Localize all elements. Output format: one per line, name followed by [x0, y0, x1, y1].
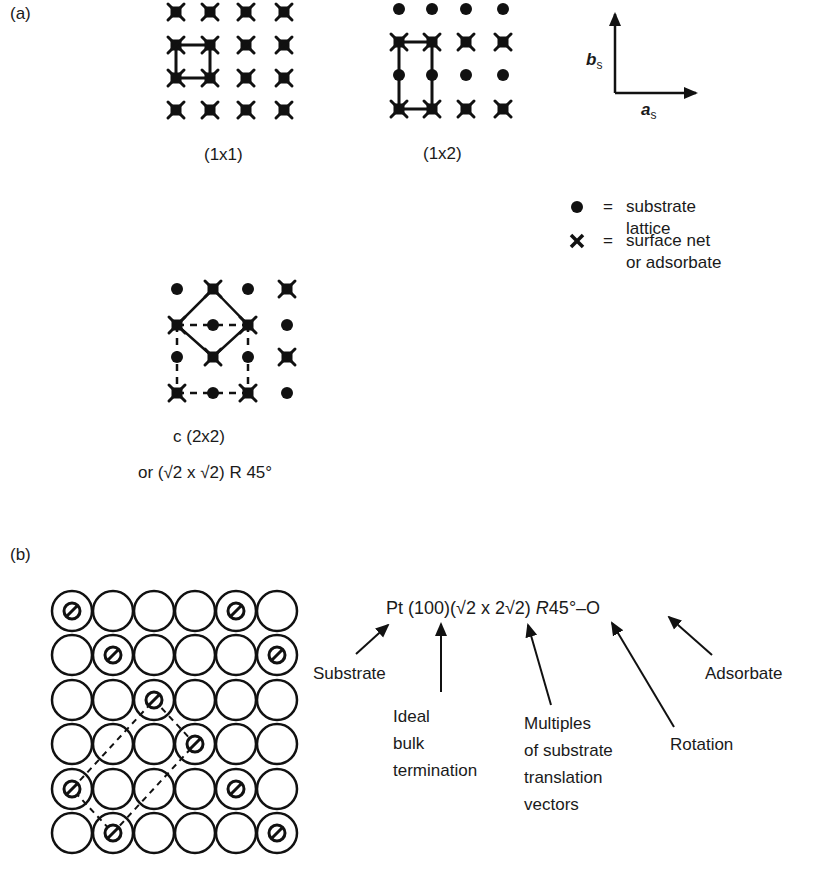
substrate-atom	[175, 680, 215, 720]
substrate-atom	[93, 591, 133, 631]
substrate-atom	[216, 680, 256, 720]
substrate-atom	[257, 591, 297, 631]
substrate-atom	[257, 680, 297, 720]
notation-matrix: (√2 x 2√2)	[450, 598, 531, 618]
notation-rot-symbol: R	[536, 598, 549, 618]
substrate-atom	[175, 769, 215, 809]
unit-cell-outline	[72, 700, 195, 833]
substrate-atom	[175, 591, 215, 631]
diagram-root: (a)	[0, 0, 824, 881]
notation-formula: Pt (100)(√2 x 2√2) R45°–O	[386, 598, 600, 618]
oxygen-atom-icon	[105, 647, 121, 663]
oxygen-atom-icon	[64, 603, 80, 619]
substrate-atom	[52, 724, 92, 764]
oxygen-adsorbates	[64, 603, 285, 841]
substrate-atom	[175, 813, 215, 853]
substrate-atom	[93, 769, 133, 809]
annot-ideal-3: termination	[393, 761, 477, 781]
substrate-atom	[52, 680, 92, 720]
substrate-atom	[93, 680, 133, 720]
annot-ideal-2: bulk	[393, 734, 424, 754]
substrate-atom	[257, 724, 297, 764]
substrate-atom	[52, 813, 92, 853]
annot-multiples-3: translation	[524, 768, 602, 788]
substrate-atoms	[52, 591, 297, 853]
oxygen-atom-icon	[64, 781, 80, 797]
substrate-atom	[134, 813, 174, 853]
substrate-atom	[216, 724, 256, 764]
substrate-atom	[257, 769, 297, 809]
substrate-atom	[52, 635, 92, 675]
oxygen-atom-icon	[269, 825, 285, 841]
annot-multiples-4: vectors	[524, 795, 579, 815]
notation-adsorbate: O	[586, 598, 600, 618]
notation-dash: –	[576, 598, 586, 618]
oxygen-atom-icon	[105, 825, 121, 841]
annot-substrate: Substrate	[313, 664, 386, 684]
oxygen-atom-icon	[228, 781, 244, 797]
annot-rotation: Rotation	[670, 735, 733, 755]
oxygen-atom-icon	[187, 736, 203, 752]
notation-plane: (100)	[408, 598, 450, 618]
annot-ideal-1: Ideal	[393, 707, 430, 727]
substrate-atom	[216, 635, 256, 675]
substrate-atom	[216, 813, 256, 853]
substrate-atom	[134, 724, 174, 764]
substrate-atom	[134, 591, 174, 631]
annot-multiples-2: of substrate	[524, 741, 613, 761]
notation-rot-value: 45°	[549, 598, 576, 618]
notation-element: Pt	[386, 598, 403, 618]
oxygen-atom-icon	[269, 647, 285, 663]
substrate-atom	[175, 635, 215, 675]
annot-multiples-1: Multiples	[524, 714, 591, 734]
substrate-atom	[134, 635, 174, 675]
oxygen-atom-icon	[228, 603, 244, 619]
oxygen-atom-icon	[146, 692, 162, 708]
annot-adsorbate: Adsorbate	[705, 664, 783, 684]
